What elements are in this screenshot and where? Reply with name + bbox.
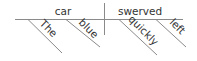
predicate-word: swerved bbox=[118, 5, 162, 17]
sentence-diagram: car swerved The blue quickly left bbox=[0, 0, 197, 61]
subject-word: car bbox=[55, 5, 72, 17]
